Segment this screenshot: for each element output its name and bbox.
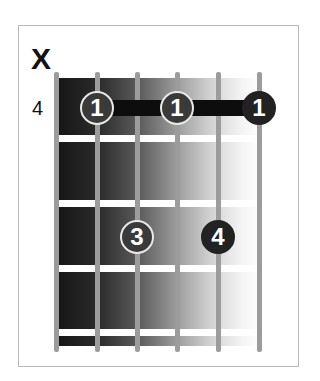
fret-line-3 [56,265,262,272]
finger-dot: 1 [160,91,194,125]
string-1 [54,72,59,352]
finger-dot: 1 [242,91,276,125]
muted-string-marker: X [28,44,54,74]
fret-line-2 [56,200,262,207]
fret-line-1 [56,135,262,142]
fret-line-4 [56,329,262,336]
start-fret-number: 4 [32,96,43,120]
finger-dot: 3 [120,220,154,254]
finger-dot: 4 [201,220,235,254]
finger-dot: 1 [80,91,114,125]
